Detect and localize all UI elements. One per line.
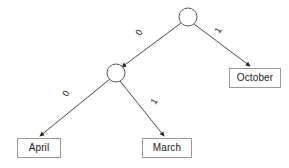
edge-root-to-inner xyxy=(122,23,181,67)
leaf-label-april: April xyxy=(29,143,50,153)
decision-tree-diagram: October April March 0 1 0 1 xyxy=(0,0,289,168)
root-decision-node xyxy=(179,8,197,26)
edge-inner-to-april xyxy=(40,79,110,136)
inner-decision-node xyxy=(107,64,125,82)
leaf-node-april: April xyxy=(17,138,61,158)
edge-inner-to-march xyxy=(120,81,164,136)
leaf-label-march: March xyxy=(153,143,181,153)
leaf-node-october: October xyxy=(229,68,281,88)
leaf-label-october: October xyxy=(237,73,273,83)
leaf-node-march: March xyxy=(142,138,192,158)
